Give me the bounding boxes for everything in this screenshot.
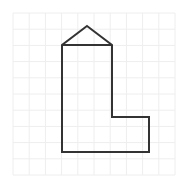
figure-canvas	[0, 0, 187, 192]
shape-diagram	[0, 0, 187, 192]
